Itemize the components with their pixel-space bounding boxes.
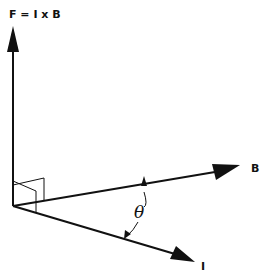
- angle-arrowhead-bottom: [124, 230, 131, 239]
- current-arrowhead: [170, 246, 195, 262]
- angle-arc: [144, 192, 146, 207]
- force-arrowhead: [7, 26, 19, 52]
- vector-diagram: F = I x B B I θ: [0, 0, 269, 273]
- field-arrowhead: [212, 164, 240, 180]
- field-vector-line: [13, 172, 215, 206]
- angle-arrowhead-top: [141, 176, 147, 186]
- right-angle-marker-f-b: [13, 178, 44, 200]
- angle-label: θ: [134, 202, 144, 222]
- force-label: F = I x B: [9, 8, 61, 21]
- field-label: B: [251, 162, 259, 175]
- current-vector-line: [13, 206, 175, 254]
- right-angle-marker-f-i: [13, 181, 36, 213]
- current-label: I: [201, 260, 205, 273]
